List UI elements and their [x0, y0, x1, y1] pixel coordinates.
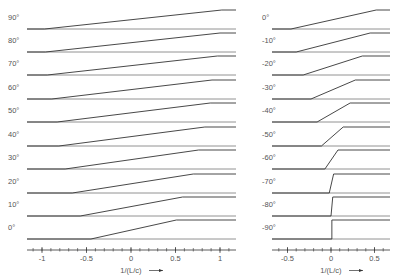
- row-angle-label: 0°: [262, 13, 269, 22]
- row-angle-label: 90°: [8, 13, 19, 22]
- ramp-trace: [272, 80, 390, 99]
- row-angle-label: 60°: [8, 83, 19, 92]
- row-angle-label: -30°: [262, 83, 276, 92]
- trace-row: 70°: [8, 56, 236, 75]
- trace-row: 90°: [8, 10, 236, 29]
- trace-row: -30°: [262, 80, 390, 99]
- arrow-head-icon: [359, 269, 363, 272]
- ramp-trace: [272, 127, 390, 146]
- ramp-trace: [27, 174, 236, 193]
- row-angle-label: -80°: [262, 200, 276, 209]
- row-angle-label: -70°: [262, 177, 276, 186]
- ramp-trace: [272, 103, 390, 122]
- row-angle-label: 70°: [8, 59, 19, 68]
- ramp-trace: [27, 127, 236, 146]
- ramp-trace: [27, 197, 236, 216]
- x-axis-title: 1/(L/c): [120, 266, 142, 275]
- trace-row: 10°: [8, 197, 236, 216]
- row-angle-label: 80°: [8, 36, 19, 45]
- ramp-trace: [272, 220, 390, 239]
- chart-canvas: 90°80°70°60°50°40°30°20°10°0°-1-0.500.51…: [0, 0, 400, 277]
- trace-row: 40°: [8, 127, 236, 146]
- ramp-trace: [272, 174, 390, 193]
- x-tick-label: 0: [329, 254, 333, 263]
- trace-row: -60°: [262, 150, 390, 169]
- trace-row: -40°: [262, 103, 390, 122]
- ramp-trace: [27, 33, 236, 52]
- row-angle-label: 30°: [8, 153, 19, 162]
- trace-row: 80°: [8, 33, 236, 52]
- trace-row: 50°: [8, 103, 236, 122]
- x-tick-label: 1: [218, 254, 222, 263]
- arrow-head-icon: [159, 269, 163, 272]
- x-tick-label: 0.5: [170, 254, 180, 263]
- trace-row: 60°: [8, 80, 236, 99]
- x-axis-title: 1/(L/c): [320, 266, 342, 275]
- ramp-trace: [272, 150, 390, 169]
- row-angle-label: 20°: [8, 177, 19, 186]
- trace-row: 20°: [8, 174, 236, 193]
- row-angle-label: 0°: [8, 223, 15, 232]
- ramp-trace: [27, 150, 236, 169]
- x-axis: -1-0.500.511/(L/c): [27, 247, 236, 275]
- ramp-trace: [27, 56, 236, 75]
- row-angle-label: 40°: [8, 130, 19, 139]
- trace-row: -10°: [262, 33, 390, 52]
- x-tick-label: -1: [39, 254, 46, 263]
- ramp-trace: [272, 10, 390, 29]
- ramp-trace: [27, 103, 236, 122]
- trace-row: -80°: [262, 197, 390, 216]
- x-tick-label: -0.5: [281, 254, 294, 263]
- trace-row: -50°: [262, 127, 390, 146]
- ramp-trace: [272, 197, 390, 216]
- step-response-figure: 90°80°70°60°50°40°30°20°10°0°-1-0.500.51…: [0, 0, 400, 277]
- trace-row: -70°: [262, 174, 390, 193]
- row-angle-label: 50°: [8, 106, 19, 115]
- trace-row: 0°: [262, 10, 390, 29]
- trace-row: 30°: [8, 150, 236, 169]
- row-angle-label: -10°: [262, 36, 276, 45]
- x-axis: -0.500.51/(L/c): [272, 247, 390, 275]
- trace-row: -90°: [262, 220, 390, 239]
- row-angle-label: -40°: [262, 106, 276, 115]
- ramp-trace: [27, 10, 236, 29]
- ramp-trace: [272, 56, 390, 75]
- row-angle-label: 10°: [8, 200, 19, 209]
- row-angle-label: -90°: [262, 223, 276, 232]
- x-tick-label: 0: [129, 254, 133, 263]
- trace-row: 0°: [8, 220, 236, 239]
- ramp-trace: [27, 220, 236, 239]
- x-tick-label: 0.5: [369, 254, 379, 263]
- row-angle-label: -60°: [262, 153, 276, 162]
- x-tick-label: -0.5: [80, 254, 93, 263]
- trace-row: -20°: [262, 56, 390, 75]
- right-panel: 0°-10°-20°-30°-40°-50°-60°-70°-80°-90°-0…: [262, 10, 390, 275]
- left-panel: 90°80°70°60°50°40°30°20°10°0°-1-0.500.51…: [8, 10, 236, 275]
- ramp-trace: [272, 33, 390, 52]
- row-angle-label: -20°: [262, 59, 276, 68]
- row-angle-label: -50°: [262, 130, 276, 139]
- ramp-trace: [27, 80, 236, 99]
